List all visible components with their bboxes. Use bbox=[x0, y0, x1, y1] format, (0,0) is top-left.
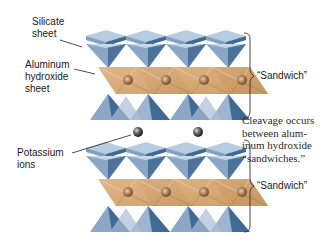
potassium-ions bbox=[133, 127, 203, 137]
potassium-ions-label: Potassium ions bbox=[17, 147, 64, 171]
potassium-ion bbox=[133, 127, 143, 137]
sandwich-bottom bbox=[86, 142, 268, 232]
sandwich-label-top: “Sandwich” bbox=[257, 70, 307, 82]
aluminum-hydroxide-sheet-label: Aluminum hydroxide sheet bbox=[25, 59, 69, 95]
leader-aluminum bbox=[74, 69, 95, 74]
leader-silicate bbox=[60, 40, 82, 47]
sandwich-top bbox=[86, 30, 268, 120]
sandwich-label-bottom: “Sandwich” bbox=[257, 180, 307, 192]
silicate-sheet-label: Silicate sheet bbox=[32, 16, 64, 40]
cleavage-note: Cleavage occurs between alum- inum hydro… bbox=[242, 114, 314, 164]
potassium-ion bbox=[193, 127, 203, 137]
